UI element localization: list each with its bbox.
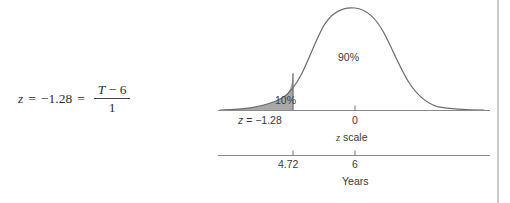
fraction-numerator: T − 6 xyxy=(94,82,131,98)
equation-z-value: −1.28 xyxy=(41,91,72,107)
page-margin-rule xyxy=(497,0,499,203)
z-cut-number: −1.28 xyxy=(255,114,282,126)
normal-curve-plot xyxy=(212,0,494,203)
equation-equals-first: = xyxy=(28,91,36,107)
normal-distribution-figure: 90% 10% z = −1.28 0 z scale 4.72 6 Years xyxy=(212,0,494,203)
equation-fraction: T − 6 1 xyxy=(94,82,131,115)
fraction-denominator: 1 xyxy=(105,99,120,115)
z-axis-label-zero: 0 xyxy=(352,114,358,126)
years-axis-label-472: 4.72 xyxy=(278,158,298,170)
years-axis-label-6: 6 xyxy=(352,158,358,170)
equation-expression: z = −1.28 = T − 6 1 xyxy=(18,82,130,115)
z-cut-value-label: z = −1.28 xyxy=(238,114,282,126)
numerator-constant: 6 xyxy=(120,82,127,97)
z-axis-title-word: scale xyxy=(340,131,367,143)
area-label-10-percent: 10% xyxy=(275,94,296,106)
z-cut-equals: = xyxy=(243,114,255,126)
area-label-90-percent: 90% xyxy=(338,51,359,63)
equation-equals-second: = xyxy=(77,91,85,107)
z-axis-title: z scale xyxy=(336,131,368,143)
equation-z-symbol: z xyxy=(18,91,23,107)
numerator-variable: T xyxy=(98,82,106,97)
years-axis-title: Years xyxy=(342,175,368,187)
numerator-operator: − xyxy=(109,82,117,97)
